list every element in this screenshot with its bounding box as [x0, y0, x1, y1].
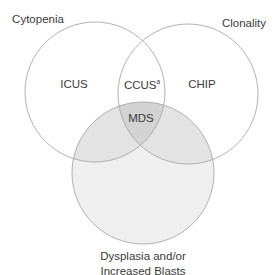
- dysplasia-label-line2: Increased Blasts: [100, 264, 186, 275]
- dysplasia-label: Dysplasia and/or Increased Blasts: [100, 249, 186, 275]
- mds-label: MDS: [128, 113, 154, 125]
- ccus-text: CCUS: [124, 79, 157, 91]
- ccus-footnote: a: [156, 78, 160, 85]
- venn-diagram: [0, 0, 278, 275]
- ccus-label: CCUSa: [124, 79, 160, 92]
- icus-label: ICUS: [60, 79, 87, 91]
- clonality-label: Clonality: [222, 18, 266, 30]
- cytopenia-label: Cytopenia: [12, 14, 64, 26]
- chip-label: CHIP: [188, 79, 215, 91]
- dysplasia-label-line1: Dysplasia and/or: [100, 249, 186, 264]
